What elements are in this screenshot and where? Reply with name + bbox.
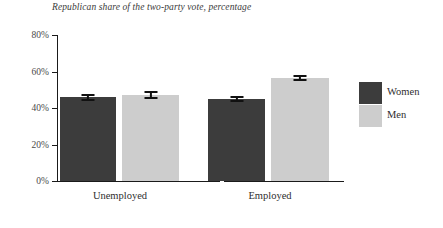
error-bar-unemployed-women bbox=[80, 94, 96, 101]
x-group-label-employed: Employed bbox=[248, 190, 291, 201]
x-axis-line-right bbox=[224, 181, 344, 182]
chart-figure: Republican share of the two-party vote, … bbox=[0, 0, 443, 228]
error-bar-employed-men bbox=[292, 75, 308, 81]
bar-unemployed-women bbox=[60, 97, 116, 181]
y-tick-label-60: 60% bbox=[32, 67, 49, 77]
y-tick-label-0: 0% bbox=[36, 176, 49, 186]
legend-swatch-women-icon bbox=[359, 82, 382, 104]
y-tick-mark-60 bbox=[52, 72, 57, 73]
legend-swatch-men-icon bbox=[359, 105, 382, 127]
y-tick-label-20: 20% bbox=[32, 140, 49, 150]
bar-unemployed-men bbox=[122, 95, 179, 181]
error-bar-unemployed-men bbox=[143, 91, 159, 99]
x-axis-line-left bbox=[57, 181, 220, 182]
x-group-label-unemployed: Unemployed bbox=[93, 190, 147, 201]
y-tick-label-80: 80% bbox=[32, 30, 49, 40]
legend-label-men: Men bbox=[387, 109, 406, 120]
y-axis-line bbox=[57, 35, 58, 182]
y-tick-label-40: 40% bbox=[32, 103, 49, 113]
legend-label-women: Women bbox=[387, 86, 419, 97]
error-bar-employed-women bbox=[229, 96, 245, 102]
bar-employed-men bbox=[271, 78, 329, 181]
y-tick-mark-0 bbox=[52, 181, 57, 182]
y-tick-mark-20 bbox=[52, 145, 57, 146]
y-tick-mark-80 bbox=[52, 35, 57, 36]
bar-employed-women bbox=[208, 99, 265, 181]
y-tick-mark-40 bbox=[52, 108, 57, 109]
